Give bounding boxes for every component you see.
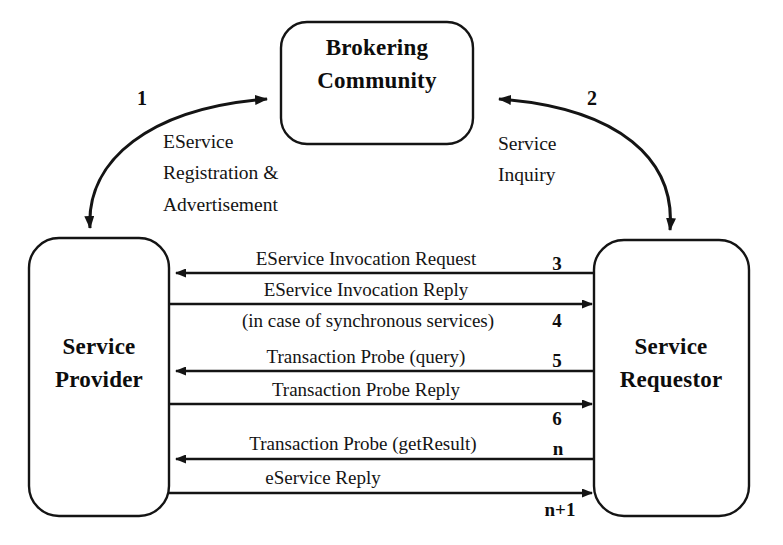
interaction-diagram: Brokering Community Service Provider Ser… <box>0 0 783 545</box>
message-n-plus-1-sequence-number: n+1 <box>545 499 576 520</box>
node-service-requestor[interactable]: Service Requestor <box>594 240 749 516</box>
service-provider-label-line1: Service <box>63 334 136 359</box>
message-row-n[interactable]: Transaction Probe (getResult) n <box>176 433 594 459</box>
message-n-sequence-number: n <box>553 438 564 459</box>
diagram-canvas: Brokering Community Service Provider Ser… <box>0 0 783 545</box>
brokering-community-label-line2: Community <box>317 68 437 93</box>
registration-label-line2: Registration & <box>163 162 278 183</box>
service-provider-label-line2: Provider <box>55 367 143 392</box>
message-4-sequence-number: 4 <box>552 310 562 331</box>
message-3-sequence-number: 3 <box>552 253 562 274</box>
registration-label-line3: Advertisement <box>163 194 278 215</box>
message-5-label: Transaction Probe (query) <box>267 346 466 368</box>
message-n-plus-1-label: eService Reply <box>265 467 381 488</box>
message-row-6[interactable]: Transaction Probe Reply 6 <box>169 379 592 429</box>
inquiry-sequence-number: 2 <box>587 87 597 109</box>
registration-sequence-number: 1 <box>137 87 147 109</box>
message-6-sequence-number: 6 <box>552 408 562 429</box>
node-service-provider[interactable]: Service Provider <box>29 238 169 516</box>
message-3-label: EService Invocation Request <box>256 248 477 269</box>
node-brokering-community[interactable]: Brokering Community <box>281 22 473 144</box>
message-row-5[interactable]: Transaction Probe (query) 5 <box>176 346 594 371</box>
inquiry-label-line1: Service <box>498 133 556 154</box>
inquiry-label-line2: Inquiry <box>498 164 556 185</box>
flow-registration-advertisement[interactable]: 1 EService Registration & Advertisement <box>90 87 279 228</box>
message-6-label: Transaction Probe Reply <box>272 379 461 400</box>
flow-service-inquiry[interactable]: 2 Service Inquiry <box>498 87 670 230</box>
registration-label-line1: EService <box>163 131 233 152</box>
service-requestor-label-line1: Service <box>635 334 708 359</box>
message-row-3[interactable]: EService Invocation Request 3 <box>176 248 594 274</box>
message-4-label: EService Invocation Reply <box>264 279 469 300</box>
message-5-sequence-number: 5 <box>552 350 562 371</box>
brokering-community-label-line1: Brokering <box>326 35 429 60</box>
message-n-label: Transaction Probe (getResult) <box>249 433 476 455</box>
service-requestor-label-line2: Requestor <box>620 367 723 392</box>
message-row-4[interactable]: EService Invocation Reply (in case of sy… <box>169 279 592 332</box>
message-row-n-plus-1[interactable]: eService Reply n+1 <box>169 467 592 520</box>
message-4-sublabel: (in case of synchronous services) <box>242 310 494 332</box>
